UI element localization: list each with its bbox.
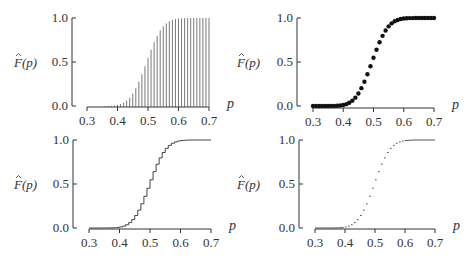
x-tick-label: 0.3 <box>305 114 321 129</box>
data-point <box>362 80 366 84</box>
x-axis-label: p <box>452 218 460 233</box>
x-tick-label: 0.3 <box>81 235 97 250</box>
y-tick-label: 1.0 <box>279 132 295 147</box>
chart-panel-dots: 0.00.51.00.30.40.50.60.7pF(p) <box>236 10 459 129</box>
x-tick-label: 0.6 <box>397 235 414 250</box>
y-axis-label: F(p) <box>236 55 260 70</box>
x-tick-label: 0.7 <box>427 235 444 250</box>
data-point <box>368 64 372 68</box>
x-axis-label: p <box>451 97 459 112</box>
x-tick-label: 0.4 <box>111 235 128 250</box>
y-tick-label: 0.0 <box>279 220 295 235</box>
x-tick-label: 0.5 <box>140 113 156 128</box>
data-point <box>383 28 387 32</box>
x-tick-label: 0.4 <box>337 235 354 250</box>
y-axis-label: F(p) <box>13 55 37 70</box>
y-tick-label: 0.5 <box>52 54 68 69</box>
data-point <box>359 86 363 90</box>
x-tick-label: 0.5 <box>365 114 381 129</box>
y-tick-label: 0.0 <box>53 220 69 235</box>
data-point <box>374 47 378 51</box>
data-point <box>353 95 357 99</box>
x-tick-label: 0.6 <box>396 114 413 129</box>
data-point <box>365 72 369 76</box>
data-point <box>380 34 384 38</box>
data-point <box>377 40 381 44</box>
data-point <box>432 16 436 20</box>
y-tick-label: 0.5 <box>279 176 295 191</box>
x-axis-label: p <box>226 96 234 111</box>
x-tick-label: 0.3 <box>307 235 323 250</box>
y-axis-label: F(p) <box>13 177 37 192</box>
y-tick-label: 0.5 <box>277 54 293 69</box>
x-tick-label: 0.3 <box>79 113 95 128</box>
x-tick-label: 0.4 <box>335 114 352 129</box>
x-tick-label: 0.6 <box>170 113 187 128</box>
y-tick-label: 0.0 <box>52 98 68 113</box>
x-tick-label: 0.5 <box>142 235 158 250</box>
x-tick-label: 0.5 <box>367 235 383 250</box>
data-point <box>371 56 375 60</box>
y-tick-label: 0.0 <box>277 98 293 113</box>
chart-panel-step: 0.00.51.00.30.40.50.60.7pF(p) <box>13 132 236 250</box>
step-line <box>89 140 211 228</box>
y-tick-label: 1.0 <box>52 10 68 25</box>
data-point <box>356 91 360 95</box>
x-tick-label: 0.6 <box>172 235 189 250</box>
y-tick-label: 0.5 <box>53 176 69 191</box>
x-tick-label: 0.4 <box>109 113 126 128</box>
y-tick-label: 1.0 <box>277 10 293 25</box>
chart-panel-horizontal-steps: 0.00.51.00.30.40.50.60.7pF(p) <box>236 132 460 250</box>
x-axis-label: p <box>228 218 236 233</box>
y-axis-label: F(p) <box>236 177 260 192</box>
x-tick-label: 0.7 <box>426 114 443 129</box>
y-tick-label: 1.0 <box>53 132 69 147</box>
chart-panel-needle: 0.00.51.00.30.40.50.60.7pF(p) <box>13 10 234 128</box>
x-tick-label: 0.7 <box>201 113 218 128</box>
ecdf-figure: 0.00.51.00.30.40.50.60.7pF(p) 0.00.51.00… <box>0 0 468 261</box>
x-tick-label: 0.7 <box>203 235 220 250</box>
